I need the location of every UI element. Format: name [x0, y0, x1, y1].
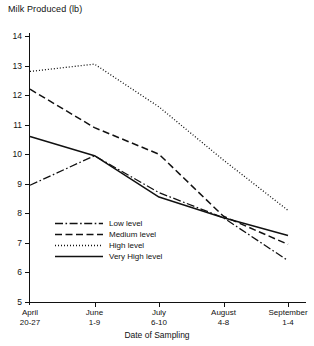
y-tick-label: 11	[2, 120, 22, 130]
legend-label: Low level	[109, 219, 142, 228]
x-tick-label: April20-27	[0, 308, 61, 327]
legend-item: High level	[55, 240, 162, 251]
y-tick-label: 14	[2, 31, 22, 41]
plot-area	[30, 36, 288, 302]
y-tick-label: 5	[2, 297, 22, 307]
y-tick	[25, 184, 29, 185]
legend-item: Low level	[55, 218, 162, 229]
x-tick	[95, 303, 96, 307]
x-axis-title: Date of Sampling	[0, 330, 314, 340]
x-tick-label: June1-9	[64, 308, 126, 327]
x-tick	[159, 303, 160, 307]
series-lines	[30, 36, 288, 302]
y-tick	[25, 95, 29, 96]
x-tick	[224, 303, 225, 307]
y-axis-title: Milk Produced (lb)	[8, 4, 82, 14]
series-line	[30, 64, 288, 210]
chart-legend: Low levelMedium levelHigh levelVery High…	[55, 218, 162, 262]
legend-item: Very High level	[55, 251, 162, 262]
legend-swatch	[55, 241, 103, 250]
legend-item: Medium level	[55, 229, 162, 240]
x-tick	[288, 303, 289, 307]
y-tick-label: 7	[2, 238, 22, 248]
legend-label: High level	[109, 241, 144, 250]
y-tick-label: 8	[2, 208, 22, 218]
x-tick-label: August4-8	[193, 308, 255, 327]
y-tick-label: 6	[2, 267, 22, 277]
x-tick-label: July6-10	[128, 308, 190, 327]
legend-label: Very High level	[109, 252, 162, 261]
legend-label: Medium level	[109, 230, 156, 239]
y-tick	[25, 213, 29, 214]
legend-swatch	[55, 230, 103, 239]
x-tick-label: September1-4	[257, 308, 314, 327]
y-tick	[25, 36, 29, 37]
y-tick	[25, 154, 29, 155]
y-tick-label: 10	[2, 149, 22, 159]
y-tick-label: 9	[2, 179, 22, 189]
y-tick	[25, 302, 29, 303]
y-tick	[25, 272, 29, 273]
legend-swatch	[55, 252, 103, 261]
milk-production-line-chart: Milk Produced (lb) 567891011121314 April…	[0, 0, 314, 346]
y-tick-label: 13	[2, 61, 22, 71]
y-tick-label: 12	[2, 90, 22, 100]
y-tick	[25, 66, 29, 67]
y-tick	[25, 243, 29, 244]
legend-swatch	[55, 219, 103, 228]
x-axis-line	[29, 302, 306, 303]
y-tick	[25, 125, 29, 126]
